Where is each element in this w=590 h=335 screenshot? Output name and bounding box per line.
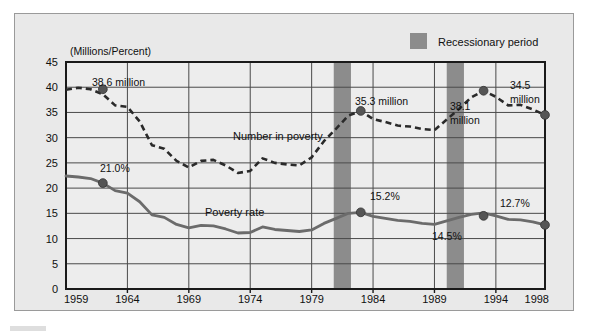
annot-12-7-percent-marker: [541, 221, 550, 230]
x-tick-label-1974: 1974: [238, 293, 262, 305]
annot-14-5-percent: 14.5%: [432, 230, 462, 242]
y-axis-tick-labels: 051015202530354045: [46, 56, 58, 295]
annot-34-5-million-line2: million: [510, 93, 540, 105]
poverty-chart: 051015202530354045 195919641969197419791…: [0, 0, 590, 335]
annot-34-5-million-marker: [541, 111, 550, 120]
x-tick-label-1969: 1969: [177, 293, 201, 305]
recession-band-1: [334, 62, 351, 289]
annot-15-2-percent: 15.2%: [370, 190, 400, 202]
annot-35-3-million: 35.3 million: [355, 95, 408, 107]
x-tick-label-1964: 1964: [115, 293, 139, 305]
annot-38-1-million: 38.1: [450, 100, 471, 112]
label-number-in-poverty: Number in poverty: [233, 130, 323, 142]
y-tick-label-25: 25: [46, 157, 58, 169]
label-poverty-rate: Poverty rate: [205, 206, 264, 218]
annot-38-1-million-line2: million: [450, 114, 480, 126]
x-tick-label-1994: 1994: [484, 293, 508, 305]
x-axis-tick-labels: 195919641969197419791984198919941998: [64, 293, 549, 305]
annot-21-0-percent-marker: [98, 179, 107, 188]
chart-screenshot: 051015202530354045 195919641969197419791…: [0, 0, 590, 335]
annot-21-0-percent: 21.0%: [100, 162, 130, 174]
annot-12-7-percent: 12.7%: [500, 197, 530, 209]
recession-swatch: [410, 33, 427, 49]
y-tick-label-45: 45: [46, 56, 58, 68]
y-axis-unit-label: (Millions/Percent): [70, 45, 151, 57]
y-tick-label-0: 0: [52, 283, 58, 295]
y-tick-label-5: 5: [52, 258, 58, 270]
x-tick-label-1989: 1989: [422, 293, 446, 305]
annot-38-1-million-marker: [479, 86, 488, 95]
annot-34-5-million: 34.5: [510, 79, 531, 91]
y-tick-label-30: 30: [46, 132, 58, 144]
y-tick-label-15: 15: [46, 207, 58, 219]
x-tick-label-1984: 1984: [361, 293, 385, 305]
y-tick-label-20: 20: [46, 182, 58, 194]
y-tick-label-40: 40: [46, 81, 58, 93]
x-tick-label-1979: 1979: [299, 293, 323, 305]
x-tick-label-1998: 1998: [525, 293, 549, 305]
annot-14-5-percent-marker: [479, 211, 488, 220]
x-tick-label-1959: 1959: [64, 293, 88, 305]
annot-15-2-percent-marker: [356, 208, 365, 217]
annot-35-3-million-marker: [356, 107, 365, 116]
recession-band-2: [447, 62, 464, 289]
legend-label-recessionary-period: Recessionary period: [438, 36, 538, 48]
y-tick-label-35: 35: [46, 106, 58, 118]
annot-38-6-million: 38.6 million: [92, 76, 145, 88]
y-tick-label-10: 10: [46, 233, 58, 245]
